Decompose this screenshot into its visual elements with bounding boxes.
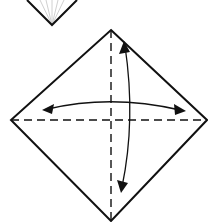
square-outline [11, 30, 207, 221]
crease-fan [40, 0, 64, 25]
origami-diagram [0, 0, 208, 222]
current-step [11, 30, 207, 221]
previous-step-tip [27, 0, 77, 25]
